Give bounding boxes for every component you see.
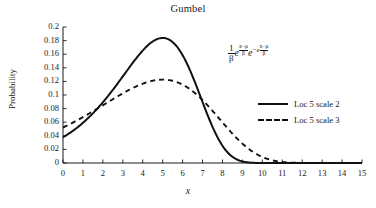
x-tick-label: 2 — [93, 168, 113, 178]
x-tick-label: 8 — [212, 168, 232, 178]
y-tick-label: 0.06 — [31, 116, 59, 126]
x-tick-label: 14 — [332, 168, 352, 178]
gumbel-chart-figure: Gumbel Probability x 1 β ex−μβe−ex−μβ Lo… — [0, 0, 376, 208]
x-tick-label: 3 — [113, 168, 133, 178]
y-tick-label: 0.02 — [31, 143, 59, 153]
x-tick-label: 10 — [252, 168, 272, 178]
y-tick-label: 0.08 — [31, 103, 59, 113]
y-tick-label: 0.04 — [31, 130, 59, 140]
x-tick-label: 11 — [272, 168, 292, 178]
x-tick-label: 1 — [73, 168, 93, 178]
y-tick-label: 0.14 — [31, 62, 59, 72]
x-tick-label: 7 — [193, 168, 213, 178]
series-line-2 — [63, 80, 362, 163]
y-tick-label: 0 — [31, 157, 59, 167]
x-tick-label: 0 — [53, 168, 73, 178]
y-tick-label: 0.12 — [31, 75, 59, 85]
x-tick-label: 9 — [232, 168, 252, 178]
y-tick-label: 0.18 — [31, 35, 59, 45]
x-tick-label: 15 — [352, 168, 372, 178]
y-tick-label: 0.16 — [31, 48, 59, 58]
series-line-1 — [63, 38, 362, 163]
y-tick-label: 0.1 — [31, 89, 59, 99]
x-tick-label: 4 — [133, 168, 153, 178]
y-tick-label: 0.2 — [31, 21, 59, 31]
x-tick-label: 13 — [312, 168, 332, 178]
x-tick-label: 6 — [173, 168, 193, 178]
x-tick-label: 12 — [292, 168, 312, 178]
x-tick-label: 5 — [153, 168, 173, 178]
